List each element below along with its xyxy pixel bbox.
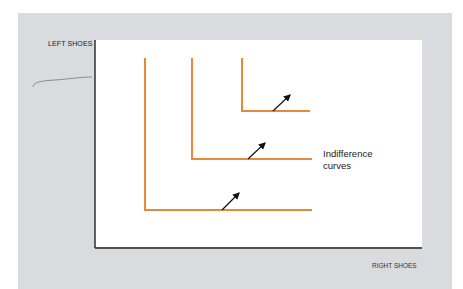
pen-mark [33,77,92,87]
arrow-icon [222,193,239,210]
indifference-curve-2 [192,58,312,159]
x-axis-label: RIGHT SHOES [372,262,417,269]
y-axis-label: LEFT SHOES [48,40,92,47]
indifference-curve-1 [145,58,312,210]
annotation-line-1: Indifference [323,148,372,160]
curves-annotation: Indifference curves [323,148,372,172]
arrow-icon [273,95,290,111]
arrow-icon [248,143,265,159]
annotation-line-2: curves [323,160,372,172]
indifference-curve-3 [242,58,310,111]
